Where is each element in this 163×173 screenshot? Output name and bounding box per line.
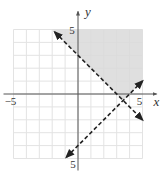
x-tick-label-max: 5 xyxy=(137,95,143,107)
shaded-region xyxy=(52,30,142,101)
coordinate-graph: −5555xy xyxy=(0,0,163,173)
y-axis-label: y xyxy=(83,4,91,19)
x-tick-label-min: −5 xyxy=(5,95,17,107)
y-tick-label-max: 5 xyxy=(69,24,75,36)
x-axis-label: x xyxy=(153,94,160,109)
y-tick-label-min: 5 xyxy=(70,158,76,170)
